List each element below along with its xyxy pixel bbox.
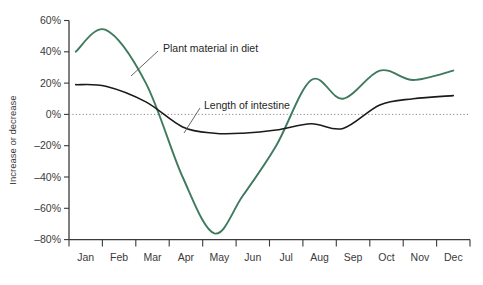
chart-container: Increase or decrease 60% 40% 20% 0% –20%… [0,0,483,285]
y-tick-label-20: 20% [40,77,61,89]
y-axis-ticks [64,21,69,240]
x-axis-ticks [69,240,470,247]
x-tick-label-nov: Nov [411,251,430,263]
y-tick-label-40: 40% [40,45,61,57]
y-tick-label-neg60: –60% [34,202,61,214]
x-tick-label-jan: Jan [77,251,94,263]
x-tick-label-aug: Aug [310,251,329,263]
x-tick-label-feb: Feb [110,251,128,263]
x-tick-label-jul: Jul [279,251,292,263]
annotation-label-length-of-intestine: Length of intestine [204,99,290,111]
x-tick-label-may: May [209,251,230,263]
x-tick-label-sep: Sep [344,251,363,263]
x-tick-label-mar: Mar [143,251,162,263]
y-tick-label-60: 60% [40,14,61,26]
y-tick-label-neg40: –40% [34,171,61,183]
y-tick-label-neg20: –20% [34,139,61,151]
y-tick-label-neg80: –80% [34,233,61,245]
line-chart: Increase or decrease 60% 40% 20% 0% –20%… [0,0,483,285]
x-tick-label-jun: Jun [244,251,261,263]
x-tick-label-apr: Apr [178,251,195,263]
y-axis-title: Increase or decrease [7,95,18,184]
y-tick-label-0: 0% [46,108,61,120]
annotation-label-plant-material: Plant material in diet [163,42,258,54]
x-tick-label-oct: Oct [378,251,394,263]
x-tick-label-dec: Dec [444,251,463,263]
